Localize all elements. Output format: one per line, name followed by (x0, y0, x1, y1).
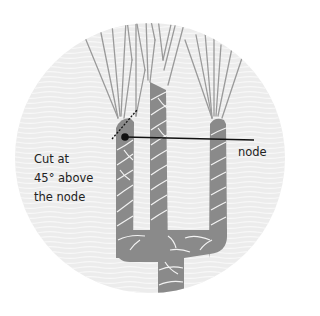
cut-label-line-2: 45° above (34, 169, 124, 188)
cut-instruction-label: Cut at 45° above the node (34, 150, 124, 207)
cut-label-line-3: the node (34, 188, 124, 207)
node-label: node (238, 143, 267, 162)
cut-label-line-1: Cut at (34, 150, 124, 169)
